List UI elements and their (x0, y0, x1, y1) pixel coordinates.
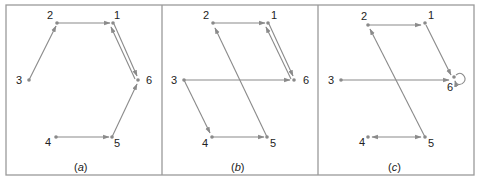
node-3 (182, 78, 186, 82)
panel-b: 1 2 3 4 5 6 (b) (171, 9, 309, 173)
edge-6-to-1 (111, 27, 135, 79)
node-label-6: 6 (146, 74, 152, 86)
edge-5-to-6 (112, 84, 137, 137)
panel-caption-a: (a) (74, 161, 87, 173)
node-label-4: 4 (45, 136, 51, 148)
node-label-2: 2 (47, 9, 53, 21)
edge-5-to-2 (215, 28, 267, 137)
node-4 (366, 135, 370, 139)
node-label-1: 1 (428, 9, 434, 21)
node-3 (339, 78, 343, 82)
node-label-3: 3 (16, 74, 22, 86)
node-6 (452, 75, 456, 79)
edge-5-to-2 (370, 29, 425, 137)
node-label-6: 6 (447, 81, 453, 93)
node-label-1: 1 (271, 9, 277, 21)
edges (29, 23, 137, 137)
node-label-4: 4 (202, 137, 208, 149)
node-4 (54, 135, 58, 139)
node-6 (292, 78, 296, 82)
node-label-3: 3 (328, 74, 334, 86)
node-label-5: 5 (114, 137, 120, 149)
panel-caption-b: (b) (231, 161, 244, 173)
node-1 (423, 21, 427, 25)
node-6 (136, 78, 140, 82)
node-5 (423, 135, 427, 139)
directed-graph-figure: 1 2 3 4 5 6 (a) 1 2 3 4 5 6 (0, 0, 479, 183)
node-label-3: 3 (171, 74, 177, 86)
edge-1-to-6 (426, 25, 451, 75)
node-1 (266, 21, 270, 25)
node-label-5: 5 (270, 137, 276, 149)
edge-3-to-2 (29, 26, 56, 80)
figure-frame (6, 5, 474, 175)
node-2 (366, 23, 370, 27)
node-label-4: 4 (359, 136, 365, 148)
panel-c: 1 2 3 4 5 6 (c) (328, 9, 465, 173)
edge-1-to-6 (114, 24, 137, 76)
node-label-2: 2 (203, 9, 209, 21)
nodes (27, 21, 140, 139)
edges (184, 23, 293, 137)
node-5 (265, 135, 269, 139)
edge-1-to-6 (269, 24, 293, 76)
edge-3-to-4 (184, 80, 210, 133)
node-label-6: 6 (303, 74, 309, 86)
node-3 (27, 78, 31, 82)
node-label-2: 2 (361, 10, 367, 22)
self-loop-6 (455, 73, 465, 84)
panel-caption-c: (c) (388, 161, 401, 173)
node-2 (211, 21, 215, 25)
node-label-5: 5 (428, 137, 434, 149)
node-1 (111, 21, 115, 25)
node-2 (55, 21, 59, 25)
edge-6-to-1 (266, 27, 291, 79)
node-label-1: 1 (114, 9, 120, 21)
node-4 (210, 135, 214, 139)
panel-a: 1 2 3 4 5 6 (a) (16, 9, 152, 173)
